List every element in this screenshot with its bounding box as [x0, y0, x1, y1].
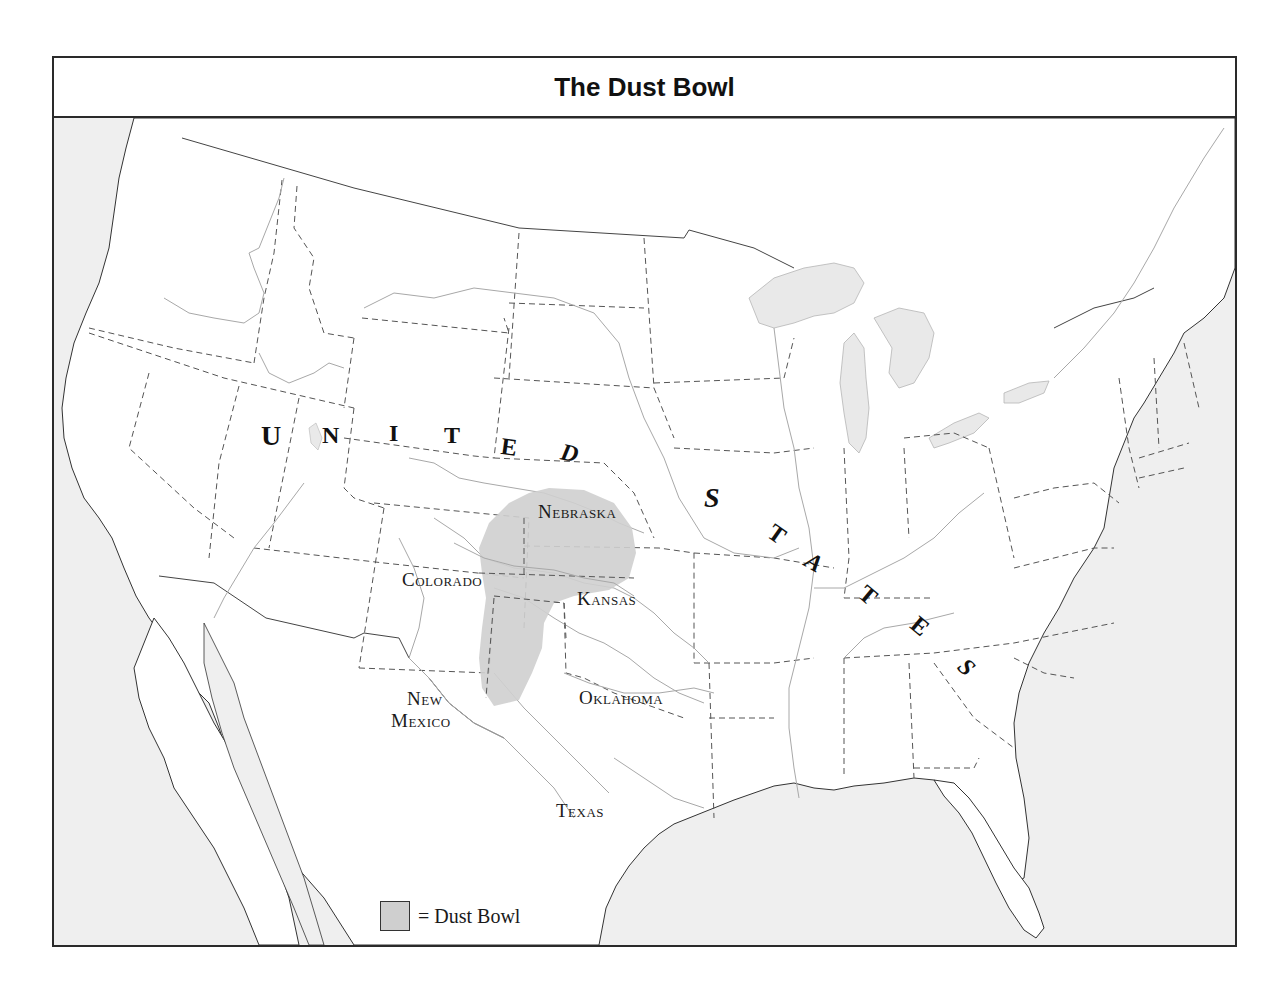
state-label-colorado: Colorado	[402, 570, 482, 589]
state-label-oklahoma: Oklahoma	[579, 688, 663, 707]
state-label-texas: Texas	[556, 801, 604, 820]
map-title: The Dust Bowl	[554, 72, 735, 103]
country-label-letter: I	[389, 421, 398, 445]
country-label-letter: T	[444, 423, 460, 447]
country-label-letter: S	[704, 484, 720, 512]
map-area: U N I T E D S T A T E S Nebraska Colorad…	[54, 118, 1235, 945]
country-label-letter: U	[261, 422, 281, 450]
country-label-letter: E	[499, 434, 518, 460]
state-label-kansas: Kansas	[577, 589, 636, 608]
state-label-new-mexico-line2: Mexico	[391, 711, 451, 730]
country-label-letter: N	[322, 423, 339, 447]
legend-label: = Dust Bowl	[418, 905, 520, 928]
state-label-new-mexico-line1: New	[407, 689, 442, 708]
map-legend: = Dust Bowl	[380, 901, 520, 931]
state-label-nebraska: Nebraska	[538, 502, 616, 521]
us-map	[54, 118, 1235, 945]
title-bar: The Dust Bowl	[54, 58, 1235, 118]
dust-bowl-legend-swatch	[380, 901, 410, 931]
map-frame: The Dust Bowl	[52, 56, 1237, 947]
